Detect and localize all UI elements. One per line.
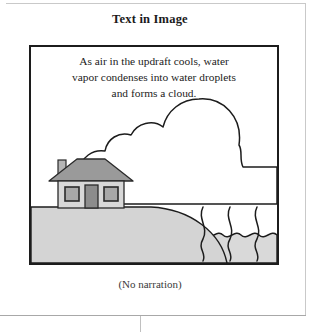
table-cell-border-bottom — [0, 315, 306, 316]
figure-caption: (No narration) — [0, 278, 300, 290]
cloud-formation-illustration: As air in the updraft cools, water vapor… — [31, 47, 277, 263]
table-column-divider — [140, 316, 141, 332]
table-cell-border-right — [305, 3, 306, 316]
illustration-text-line-2: vapor condenses into water droplets — [72, 71, 236, 83]
illustration-text-line-1: As air in the updraft cools, water — [79, 55, 229, 67]
house-window-left — [65, 187, 79, 201]
page-root: Text in Image — [0, 0, 317, 332]
house-window-right — [104, 187, 118, 201]
illustration-text-line-3: and forms a cloud. — [112, 87, 197, 99]
illustration-frame: As air in the updraft cools, water vapor… — [29, 45, 279, 265]
table-cell-border-top — [6, 3, 306, 4]
house-door — [85, 185, 98, 208]
page-title: Text in Image — [0, 12, 300, 27]
